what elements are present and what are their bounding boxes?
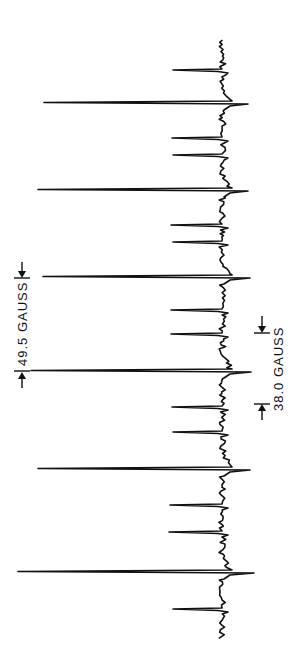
left-scale-label: 49.5 GAUSS (15, 282, 30, 366)
epr-spectrum-figure: 49.5 GAUSS 38.0 GAUSS (0, 0, 299, 662)
right-scale-marker: 38.0 GAUSS (254, 316, 286, 420)
spectrum-trace (18, 40, 254, 638)
left-scale-marker: 49.5 GAUSS (14, 262, 30, 388)
right-scale-label: 38.0 GAUSS (271, 327, 286, 411)
spectrum-plot: 49.5 GAUSS 38.0 GAUSS (0, 0, 299, 662)
spectrum-line (18, 40, 254, 638)
